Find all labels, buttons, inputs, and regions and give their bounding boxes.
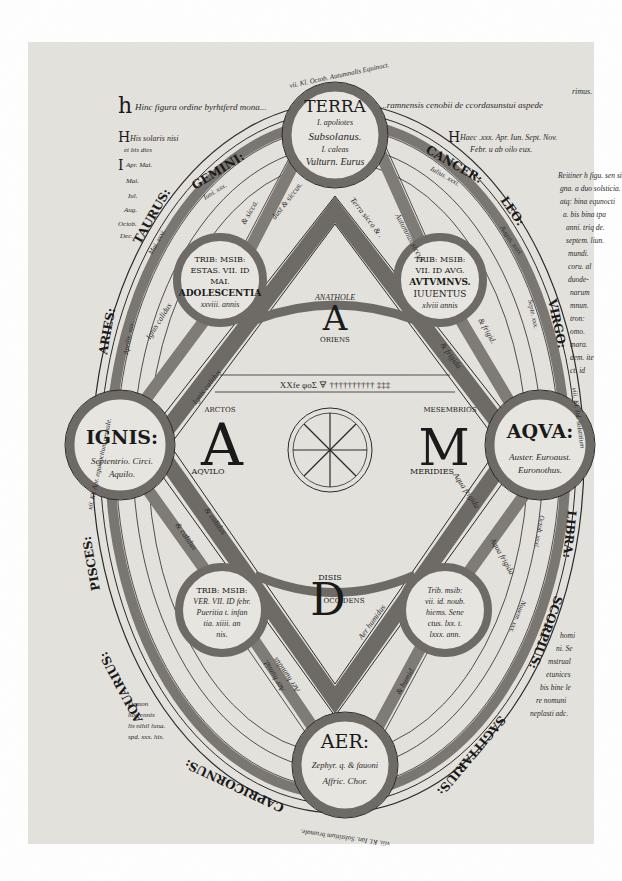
- terra-line: I. apoliotes: [316, 118, 353, 127]
- right-header: Febr. u ab oilo eux.: [469, 145, 532, 154]
- margin-line: ct. id: [570, 366, 585, 375]
- initial-i: I: [118, 157, 124, 173]
- margin-line: lis nihil luna.: [128, 722, 165, 730]
- winter-circle: Trib. msib: vii. id. noub. hiems. Sene c…: [425, 586, 465, 639]
- margin-line: tron:: [570, 314, 585, 323]
- aqua-line: Auster. Euroaust.: [508, 452, 571, 462]
- winter-line: Trib. msib:: [427, 586, 462, 595]
- left-header: Iul.: [127, 192, 138, 200]
- top-caption: ORIENS: [320, 336, 350, 344]
- aer-line: Zephyr. q. & fauoni: [312, 760, 379, 770]
- margin-line: dem. ite: [570, 353, 594, 362]
- left-header: et bis dies: [124, 146, 152, 154]
- aqua-title: AQVA:: [506, 420, 573, 442]
- left-header: Dec.: [119, 232, 133, 240]
- aer-title: AER:: [320, 730, 369, 752]
- margin-line: mara.: [570, 340, 588, 349]
- right-header: Haec .xxx. Apr. Iun. Sept. Nov.: [459, 133, 557, 142]
- left-header: His solaris nisi: [129, 134, 178, 143]
- winter-line: hiems. Sene: [426, 608, 464, 617]
- spring-line: nis.: [216, 630, 227, 639]
- terra-line: I. caleas: [320, 145, 348, 154]
- aer-line: Affric. Chor.: [322, 776, 368, 786]
- margin-line: mnun.: [570, 301, 589, 310]
- initial-h2: H: [448, 129, 460, 145]
- central-wheel: [288, 408, 372, 492]
- header-line: ...ramnensis cenobii de ccordasunstui as…: [380, 100, 543, 110]
- initial-h: h: [118, 93, 132, 118]
- margin-line: homi: [560, 631, 575, 640]
- summer-line: MAI.: [210, 277, 230, 286]
- summer-line: TRIB: MSIB:: [194, 255, 245, 264]
- margin-line: atq: bina equnocti: [560, 197, 615, 206]
- margin-line: hoc ennis: [128, 711, 155, 719]
- margin-line: septem. liun.: [566, 236, 604, 245]
- initial-h3: H: [118, 129, 130, 145]
- autumn-line: xlviii annis: [421, 301, 457, 310]
- margin-line: ni. Se: [556, 644, 573, 653]
- autumn-line: IUUENTUS: [414, 289, 467, 299]
- right-caption: MERIDIES: [410, 467, 454, 476]
- margin-line: anni. triq de.: [566, 223, 605, 232]
- margin-line: mstrual: [548, 657, 571, 666]
- margin-line: spd. xxx. his.: [128, 733, 164, 741]
- margin-line: duode-: [568, 275, 589, 284]
- margin-line: neplasti adc.: [530, 709, 568, 718]
- top-letter: A: [322, 298, 348, 338]
- margin-line: narum: [570, 288, 590, 297]
- cipher-row: XXfe φoΣ 🜃 †††††††††† ‡‡‡: [280, 380, 391, 390]
- spring-line: tia. xiiii. an: [204, 619, 241, 628]
- spring-line: VER. VII. ID febr.: [193, 597, 250, 606]
- header-line: Hinc figura ordine byrhtferd mona...: [134, 102, 266, 112]
- terra-line: Vulturn. Eurus: [306, 156, 365, 167]
- winter-line: ctus. lxx. t.: [428, 619, 462, 628]
- byrhtferth-diagram: TERRA I. apoliotes Subsolanus. I. caleas…: [0, 0, 622, 881]
- terra-title: TERRA: [304, 96, 366, 116]
- spring-line: Pueritia t. infan: [196, 608, 248, 617]
- margin-line: gna. a duo solsticia.: [560, 184, 621, 193]
- autumn-line: VII. ID AVG.: [414, 266, 464, 275]
- left-header: Apr. Mai.: [125, 161, 153, 169]
- margin-line: etunices: [546, 670, 571, 679]
- autumn-line: AVTVMNVS.: [408, 277, 470, 287]
- left-caption: AQVILO: [190, 467, 225, 476]
- summer-line: ESTAS. VII. ID: [190, 266, 249, 275]
- manuscript-page: TERRA I. apoliotes Subsolanus. I. caleas…: [0, 0, 622, 881]
- spring-line: TRIB: MSIB:: [196, 586, 247, 595]
- right-word: MESEMBRIOS: [423, 406, 476, 414]
- summer-line: ADOLESCENTIA: [178, 288, 262, 298]
- margin-line: Demon: [127, 700, 149, 708]
- terra-line: Subsolanus.: [309, 130, 362, 142]
- summer-line: xxviii. annis: [200, 300, 240, 309]
- terra-circle: TERRA I. apoliotes Subsolanus. I. caleas…: [304, 96, 366, 167]
- aqua-line: Euronothus.: [517, 465, 562, 475]
- winter-line: vii. id. noub.: [425, 597, 465, 606]
- margin-line: omo.: [570, 327, 585, 336]
- bottom-caption: OCCIDENS: [324, 597, 365, 605]
- margin-line: bis bine le: [540, 683, 571, 692]
- margin-line: a. bis bina tpa: [563, 210, 606, 219]
- left-header: Mai.: [125, 177, 139, 185]
- left-header: Aug.: [123, 206, 137, 214]
- left-header: Octob.: [118, 220, 137, 228]
- winter-line: lxxx. ann.: [430, 630, 461, 639]
- margin-line: Reitiner h figu. sen si: [557, 171, 622, 180]
- corner-note: rimus.: [572, 87, 592, 96]
- margin-line: re nomuni: [536, 696, 566, 705]
- ignis-line: Aquilo.: [108, 469, 135, 479]
- ignis-title: IGNIS:: [86, 426, 158, 448]
- margin-line: coru. al: [568, 262, 591, 271]
- margin-line: mundi.: [568, 249, 589, 258]
